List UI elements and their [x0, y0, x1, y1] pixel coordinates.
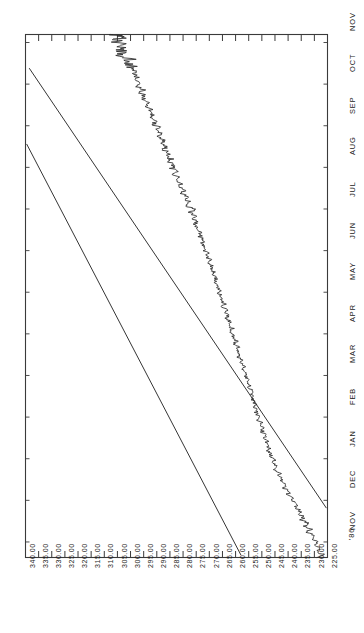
- value-axis-label: 310.00: [107, 543, 114, 568]
- value-axis-label: 265.00: [226, 543, 233, 568]
- chart-background: [0, 0, 364, 633]
- year-marker-label: '86: [347, 527, 356, 539]
- time-axis-label: DEC: [348, 470, 357, 488]
- time-axis-label: JUL: [348, 181, 357, 197]
- time-axis-label: MAR: [348, 344, 357, 363]
- time-axis-label: FEB: [348, 388, 357, 405]
- value-axis-label: 290.00: [160, 543, 167, 568]
- value-axis-label: 260.00: [239, 543, 246, 568]
- time-axis-label: SEP: [348, 96, 357, 114]
- time-axis-label: JAN: [348, 430, 357, 447]
- value-axis-label: 255.00: [252, 543, 259, 568]
- value-axis-label: 315.00: [94, 543, 101, 568]
- value-axis-label: 325.00: [68, 543, 75, 568]
- time-axis-label: JUN: [348, 222, 357, 239]
- value-axis-label: 270.00: [213, 543, 220, 568]
- value-axis-label: 240.00: [291, 543, 298, 568]
- value-axis-label: 285.00: [173, 543, 180, 568]
- value-axis-label: 230.00: [318, 543, 325, 568]
- value-axis-label: 275.00: [199, 543, 206, 568]
- value-axis-label: 340.00: [29, 543, 36, 568]
- value-axis-label: 280.00: [186, 543, 193, 568]
- value-axis-label: 235.00: [304, 543, 311, 568]
- value-axis-label: 245.00: [278, 543, 285, 568]
- time-axis-label: MAY: [348, 262, 357, 280]
- value-axis-label: 305.00: [121, 543, 128, 568]
- value-axis-label: 335.00: [42, 543, 49, 568]
- time-axis-label: NOV: [348, 12, 357, 31]
- time-axis-label: OCT: [348, 54, 357, 72]
- time-axis-label: AUG: [348, 137, 357, 156]
- value-axis-label: 250.00: [265, 543, 272, 568]
- value-axis-label: 225.00: [331, 543, 338, 568]
- value-axis-label: 300.00: [134, 543, 141, 568]
- value-axis-label: 320.00: [81, 543, 88, 568]
- time-axis-label: APR: [348, 304, 357, 322]
- value-axis-label: 330.00: [55, 543, 62, 568]
- chart-page: 340.00335.00330.00325.00320.00315.00310.…: [0, 0, 364, 633]
- value-axis-label: 295.00: [147, 543, 154, 568]
- price-chart: [0, 0, 364, 633]
